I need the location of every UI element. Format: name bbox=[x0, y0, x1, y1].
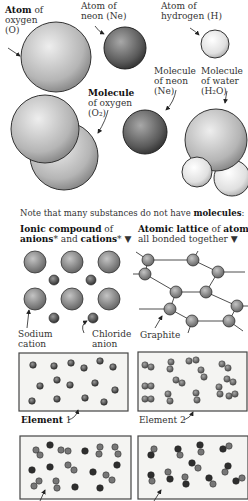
label-text: of water bbox=[201, 76, 239, 86]
arrow-icon bbox=[155, 316, 162, 328]
arrow-icon bbox=[95, 26, 104, 34]
label-text: Chloride bbox=[92, 329, 131, 339]
label-text: Atom of bbox=[161, 1, 197, 11]
label-text: hydrogen (H) bbox=[161, 11, 222, 21]
label-text: of bbox=[101, 224, 113, 234]
label-molecule-oxygen: Molecule of oxygen (O₂) bbox=[88, 88, 134, 118]
label-text: : bbox=[241, 208, 244, 218]
label-text: of bbox=[209, 224, 223, 234]
arrow-icon bbox=[8, 48, 20, 56]
label-text: of oxygen bbox=[88, 98, 132, 108]
label-text: neon (Ne) bbox=[81, 11, 126, 21]
label-atomic-lattice: Atomic lattice of atoms all bonded toget… bbox=[138, 224, 248, 244]
label-bold: cations bbox=[81, 234, 118, 244]
label-text: Note that many substances do not have bbox=[20, 208, 193, 218]
label-sodium-cation: Sodium cation bbox=[18, 329, 53, 349]
label-molecule-water: Molecule of water (H₂O) bbox=[201, 66, 243, 96]
label-element-2: Element 2 bbox=[139, 415, 186, 425]
label-graphite: Graphite bbox=[140, 330, 180, 340]
label-text: (Ne) bbox=[154, 86, 174, 96]
label-text: cation bbox=[18, 339, 46, 349]
label-atom-hydrogen: Atom of hydrogen (H) bbox=[161, 1, 222, 21]
atom-hydrogen-sphere bbox=[201, 30, 229, 58]
label-molecule-neon: Molecule of neon (Ne) bbox=[154, 66, 196, 96]
note-text: Note that many substances do not have mo… bbox=[20, 208, 244, 218]
label-bold: Atomic lattice bbox=[138, 224, 209, 234]
label-chloride-anion: Chloride anion bbox=[92, 329, 131, 349]
graphite-atoms bbox=[139, 254, 243, 327]
label-molecule-bold: Molecule bbox=[88, 88, 134, 98]
label-text: of bbox=[32, 5, 44, 15]
label-text: Molecule bbox=[154, 66, 196, 76]
molecule-water-spheres bbox=[182, 109, 248, 196]
label-text: (O) bbox=[5, 25, 19, 35]
label-atom-bold: Atom bbox=[5, 5, 32, 15]
label-bold: anions bbox=[20, 234, 53, 244]
arrow-icon bbox=[27, 310, 29, 328]
arrow-icon bbox=[83, 321, 87, 333]
label-text: Atom of bbox=[81, 1, 117, 11]
label-text: all bonded together ▼ bbox=[138, 234, 238, 244]
ionic-lattice bbox=[24, 251, 120, 323]
label-bold: atoms bbox=[223, 224, 248, 234]
label-text: 1 bbox=[63, 415, 72, 425]
label-ionic-compound: Ionic compound of anions* and cations* ▼ bbox=[20, 224, 131, 244]
label-text: Molecule bbox=[201, 66, 243, 76]
label-bold: molecules bbox=[193, 208, 241, 218]
label-atom-oxygen: Atom of oxygen (O) bbox=[5, 5, 43, 35]
atom-neon-sphere bbox=[104, 27, 146, 69]
label-text: oxygen bbox=[5, 15, 37, 25]
label-text: * ▼ bbox=[117, 234, 131, 244]
label-text: Sodium bbox=[18, 329, 53, 339]
label-bold: Element bbox=[21, 415, 63, 425]
label-text: of neon bbox=[154, 76, 188, 86]
label-text: (O₂) bbox=[88, 108, 106, 118]
arrow-icon bbox=[190, 28, 199, 35]
molecule-oxygen-spheres bbox=[11, 95, 98, 190]
label-text: (H₂O) bbox=[201, 86, 227, 96]
label-text: * and bbox=[53, 234, 80, 244]
label-atom-neon: Atom of neon (Ne) bbox=[81, 1, 126, 21]
label-element-1: Element 1 bbox=[21, 415, 72, 425]
label-bold: Ionic compound bbox=[20, 224, 101, 234]
label-text: anion bbox=[92, 339, 117, 349]
